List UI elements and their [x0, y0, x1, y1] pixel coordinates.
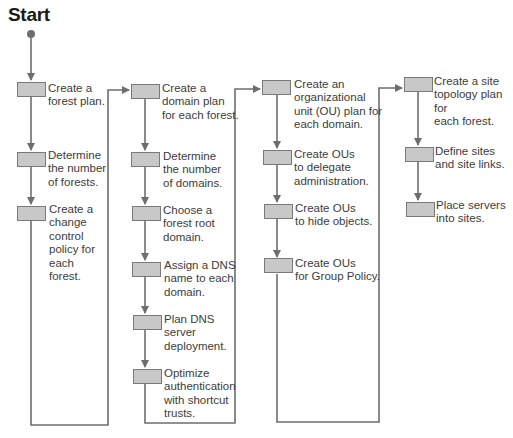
step-label-determine-forests: Determine the number of forests. — [48, 149, 106, 189]
step-label-plan-dns-deployment: Plan DNS server deployment. — [164, 313, 227, 353]
diagram-title: Start — [8, 4, 50, 26]
step-label-optimize-authentication: Optimize authentication with shortcut tr… — [164, 367, 236, 421]
step-box-determine-domains — [131, 152, 160, 167]
step-label-forest-root-domain: Choose a forest root domain. — [163, 204, 215, 244]
step-box-ous-hide-objects — [264, 204, 293, 219]
step-box-plan-dns-deployment — [133, 315, 162, 330]
step-box-site-topology-plan — [404, 77, 433, 92]
start-dot-icon — [27, 30, 35, 38]
step-box-assign-dns-name — [132, 262, 161, 277]
step-box-create-ou-plan — [262, 80, 291, 95]
step-label-site-topology-plan: Create a site topology plan for each for… — [434, 75, 513, 129]
flowchart: Start Create a forest plan. Determine th… — [0, 0, 513, 438]
step-label-ous-delegate-admin: Create OUs to delegate administration. — [294, 148, 369, 188]
step-box-create-forest-plan — [17, 82, 46, 97]
step-box-place-servers — [406, 202, 435, 217]
step-label-assign-dns-name: Assign a DNS name to each domain. — [164, 259, 236, 299]
step-box-optimize-authentication — [133, 369, 162, 384]
step-box-ous-group-policy — [264, 258, 293, 273]
step-label-create-domain-plan: Create a domain plan for each forest. — [162, 82, 239, 122]
step-label-ous-hide-objects: Create OUs to hide objects. — [295, 202, 372, 229]
step-label-ous-group-policy: Create OUs for Group Policy. — [295, 257, 380, 284]
step-box-change-control-policy — [17, 206, 46, 221]
step-box-create-domain-plan — [131, 84, 160, 99]
step-box-forest-root-domain — [132, 206, 161, 221]
step-box-define-sites — [405, 147, 434, 162]
step-label-create-forest-plan: Create a forest plan. — [48, 82, 105, 109]
step-label-create-ou-plan: Create an organizational unit (OU) plan … — [294, 78, 382, 132]
step-label-define-sites: Define sites and site links. — [435, 145, 505, 172]
step-label-place-servers: Place servers into sites. — [436, 199, 506, 226]
step-box-ous-delegate-admin — [263, 150, 292, 165]
step-box-determine-forests — [17, 152, 46, 167]
step-label-change-control-policy: Create a change control policy for each … — [49, 203, 95, 283]
step-label-determine-domains: Determine the number of domains. — [163, 150, 222, 190]
